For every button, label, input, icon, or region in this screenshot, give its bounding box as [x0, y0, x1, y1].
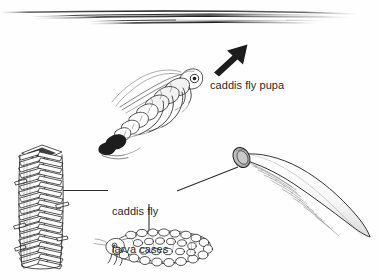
tapered-sand-larva-case-icon — [230, 144, 370, 237]
label-caddis-fly-larva-cases: caddis fly larva cases — [112, 180, 168, 279]
water-surface-icon — [0, 11, 358, 24]
caddis-fly-pupa-icon — [98, 69, 202, 159]
diagram-artwork — [0, 0, 380, 279]
leader-line-cone-case — [177, 167, 238, 191]
emergence-arrow-icon — [214, 45, 248, 77]
caddis-fly-diagram: caddis fly pupa caddis fly larva cases — [0, 0, 380, 279]
stick-larva-case-icon — [14, 145, 69, 269]
label-larva-cases-line2: larva cases — [112, 243, 168, 256]
label-caddis-fly-pupa: caddis fly pupa — [210, 79, 284, 92]
label-larva-cases-line1: caddis fly — [112, 205, 168, 218]
